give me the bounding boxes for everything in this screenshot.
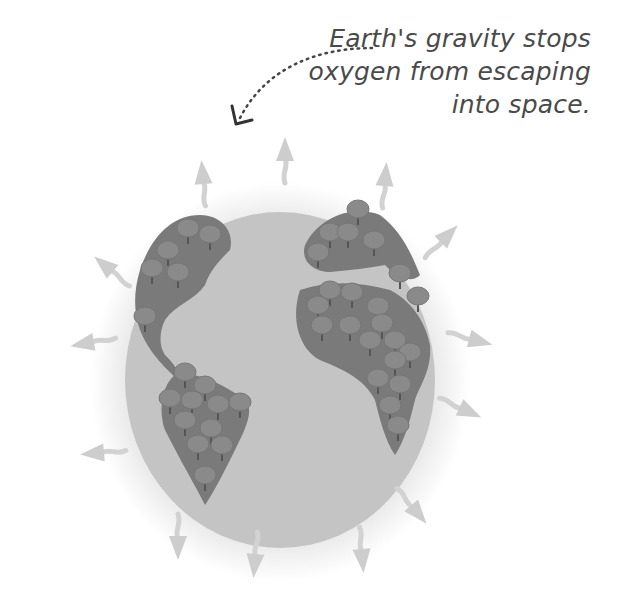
earth-illustration	[0, 0, 626, 608]
oxygen-arrow-icon	[374, 161, 396, 208]
oxygen-arrow-icon	[419, 219, 464, 264]
oxygen-arrow-icon	[276, 137, 294, 183]
dotted-pointer-arrow	[232, 48, 372, 124]
